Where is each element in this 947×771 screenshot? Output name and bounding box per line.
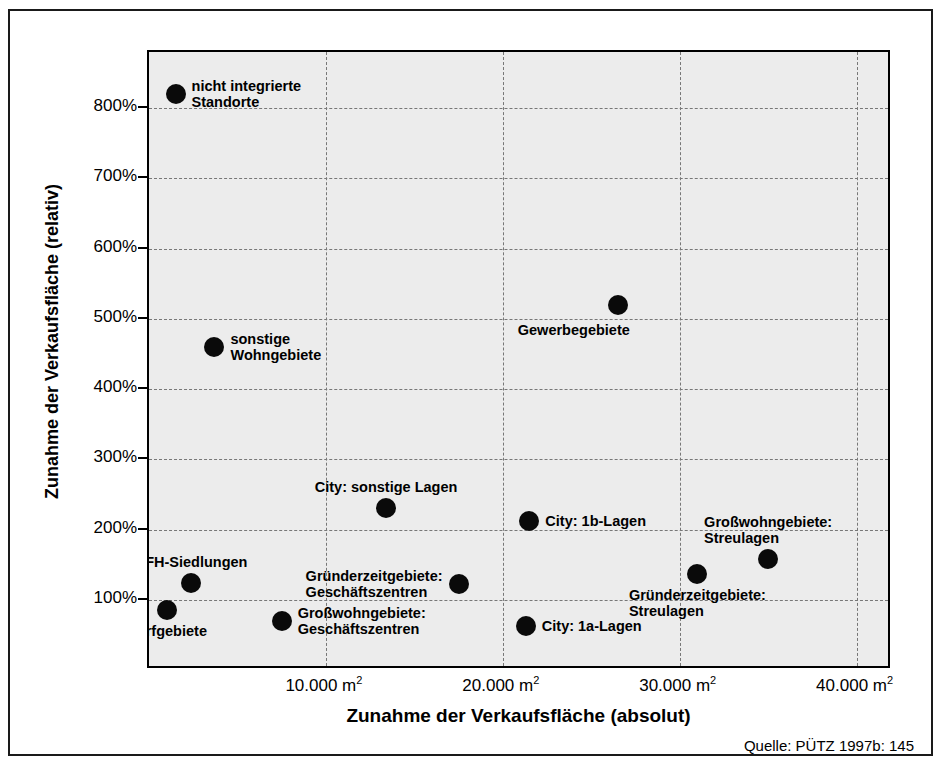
gridline-vertical — [680, 52, 681, 666]
gridline-horizontal — [149, 459, 888, 460]
y-axis-tick-label: 500% — [94, 307, 137, 327]
x-axis-tick-labels: 10.000 m220.000 m230.000 m240.000 m2 — [147, 674, 890, 704]
y-axis-tick-label: 700% — [94, 166, 137, 186]
data-point-label: Großwohngebiete: Streulagen — [704, 514, 832, 546]
data-point-label: City: 1b-Lagen — [545, 513, 646, 529]
y-axis-tick-label: 600% — [94, 237, 137, 257]
y-axis-tick-label: 800% — [94, 96, 137, 116]
data-point-label: nicht integrierte Standorte — [192, 78, 302, 110]
data-point[interactable] — [376, 498, 396, 518]
figure-frame: 100%200%300%400%500%600%700%800% Zunahme… — [8, 9, 933, 756]
y-axis-tick-mark — [138, 176, 147, 178]
x-axis-tick-label: 20.000 m2 — [462, 674, 539, 696]
source-note: Quelle: PÜTZ 1997b: 145 — [744, 737, 914, 754]
y-axis-tick-mark — [138, 387, 147, 389]
data-point-label: City: sonstige Lagen — [315, 479, 458, 495]
data-point[interactable] — [272, 611, 292, 631]
data-point-label: EFH-Siedlungen — [147, 554, 247, 570]
data-point-label: Großwohngebiete: Geschäftszentren — [298, 605, 426, 637]
gridline-horizontal — [149, 249, 888, 250]
data-point[interactable] — [519, 511, 539, 531]
y-axis-tick-mark — [138, 106, 147, 108]
y-axis-tick-mark — [138, 457, 147, 459]
x-axis-tick-label: 30.000 m2 — [639, 674, 716, 696]
gridline-horizontal — [149, 319, 888, 320]
data-point[interactable] — [687, 564, 707, 584]
y-axis-tick-label: 400% — [94, 377, 137, 397]
data-point[interactable] — [516, 616, 536, 636]
data-point-label: Gründerzeitgebiete: Geschäftszentren — [306, 567, 443, 599]
data-point[interactable] — [449, 574, 469, 594]
y-axis-tick-mark — [138, 528, 147, 530]
data-point-label: Gewerbegebiete — [518, 322, 630, 338]
data-point[interactable] — [608, 295, 628, 315]
gridline-horizontal — [149, 389, 888, 390]
data-point[interactable] — [166, 84, 186, 104]
y-axis-tick-mark — [138, 247, 147, 249]
y-axis-tick-mark — [138, 317, 147, 319]
y-axis-tick-label: 100% — [94, 588, 137, 608]
data-point-label: City: 1a-Lagen — [542, 618, 642, 634]
y-axis-tick-label: 200% — [94, 518, 137, 538]
y-axis-tick-mark — [138, 598, 147, 600]
data-point-label: sonstige Wohngebiete — [230, 331, 321, 363]
data-point-label: Dorfgebiete — [147, 623, 207, 639]
gridline-vertical — [503, 52, 504, 666]
y-axis-tick-labels: 100%200%300%400%500%600%700%800% — [55, 50, 137, 668]
plot-area: nicht integrierte Standortesonstige Wohn… — [147, 50, 890, 668]
data-point[interactable] — [157, 600, 177, 620]
x-axis-title: Zunahme der Verkaufsfläche (absolut) — [147, 705, 890, 727]
x-axis-tick-label: 40.000 m2 — [816, 674, 893, 696]
data-point[interactable] — [204, 337, 224, 357]
gridline-horizontal — [149, 600, 888, 601]
y-axis-title: Zunahme der Verkaufsfläche (relativ) — [42, 62, 63, 622]
data-point-label: Gründerzeitgebiete: Streulagen — [629, 587, 766, 619]
data-point[interactable] — [181, 573, 201, 593]
y-axis-tick-label: 300% — [94, 447, 137, 467]
gridline-horizontal — [149, 178, 888, 179]
data-point[interactable] — [758, 549, 778, 569]
gridline-vertical — [857, 52, 858, 666]
x-axis-tick-label: 10.000 m2 — [285, 674, 362, 696]
